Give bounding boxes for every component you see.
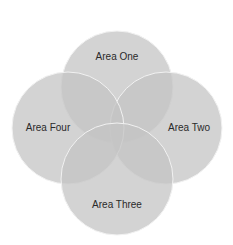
label-area-two: Area Two xyxy=(168,122,210,133)
venn-diagram: Area One Area Two Area Three Area Four xyxy=(0,0,233,245)
circle-area-three xyxy=(61,123,173,235)
label-area-one: Area One xyxy=(96,51,139,62)
label-area-three: Area Three xyxy=(92,199,142,210)
label-area-four: Area Four xyxy=(26,122,71,133)
